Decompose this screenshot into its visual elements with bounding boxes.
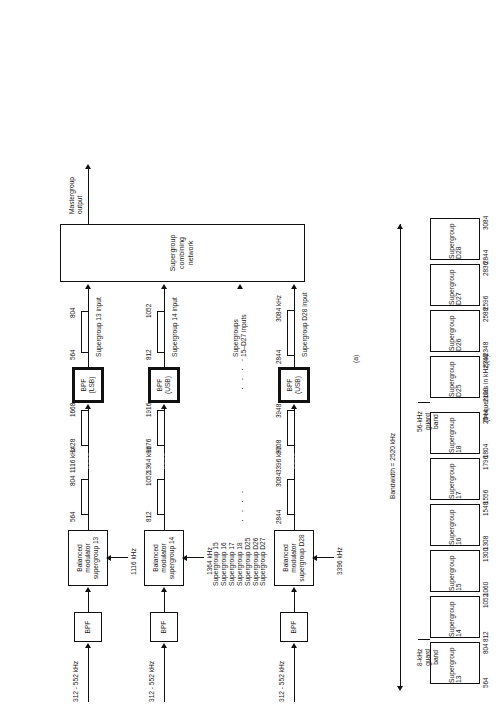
ch0-bpf-label: BPF bbox=[84, 621, 92, 634]
spectrum-band-box: Supergroup 14 bbox=[430, 596, 480, 638]
spectrum-band-low: 2596 bbox=[483, 296, 489, 310]
ch0-carrier-line bbox=[108, 557, 128, 558]
spectrum-band-high: 804 bbox=[483, 643, 489, 654]
ch2-bpf-to-mod bbox=[294, 590, 295, 612]
ch0-mod-arrow bbox=[85, 587, 91, 592]
ch0-filter-box: BPF (LSB) bbox=[74, 369, 102, 401]
unlisted-supergroups-text: Supergroup 15 Supergroup 16 Supergroup 1… bbox=[212, 538, 266, 586]
guard-8k-label: 8-kHz guard band bbox=[416, 649, 440, 666]
ch1-out-high: 1052 bbox=[146, 304, 152, 318]
spectrum-band-box: Supergroup 17 bbox=[430, 458, 480, 500]
ch0-modulator-label: Balanced modulator supergroup 13 bbox=[76, 537, 101, 580]
ch1-out-low: 812 bbox=[146, 349, 152, 360]
ch0-out-high: 804 bbox=[70, 307, 76, 318]
spectrum-band-label: Supergroup D27 bbox=[448, 265, 462, 305]
unlisted-supergroups-list: Supergroup 15 Supergroup 16 Supergroup 1… bbox=[212, 538, 267, 586]
ch2-carrier-tick bbox=[294, 453, 295, 469]
ch0-input-arrow bbox=[85, 643, 91, 648]
ch1-filter-label: BPF (USB) bbox=[156, 376, 172, 394]
ch2-mod-arrow bbox=[291, 587, 297, 592]
ch0-modulator-box: Balanced modulator supergroup 13 bbox=[68, 530, 108, 586]
ch2-network-arrow bbox=[291, 284, 297, 289]
ch2-input-arrow bbox=[291, 643, 297, 648]
ch2-out-low: 2844 bbox=[276, 350, 282, 364]
ch0-carrier-tick bbox=[88, 453, 89, 469]
ch0-lsb-high: 804 bbox=[70, 475, 76, 486]
spectrum-band-label: Supergroup 13 bbox=[448, 643, 462, 683]
spectrum-band-low: 2844 bbox=[483, 250, 489, 264]
mastergroup-output-line bbox=[88, 168, 89, 224]
ch2-usb-high: 3948 bbox=[276, 404, 282, 418]
ch2-lsb-high: 3084 bbox=[276, 473, 282, 487]
spectrum-band-box: Supergroup 16 bbox=[430, 504, 480, 546]
ch0-input-line bbox=[88, 646, 89, 702]
ch2-carrier-line bbox=[314, 557, 334, 558]
ch2-usb-low: 3708 bbox=[276, 440, 282, 454]
spectrum-band-low: 1060 bbox=[483, 582, 489, 596]
spectrum-band-box: Supergroup D25 bbox=[430, 356, 480, 398]
ch1-input-label: 312 - 552 kHz bbox=[148, 661, 156, 702]
caption-b: (b) bbox=[482, 355, 489, 363]
bandwidth-line bbox=[400, 224, 401, 686]
ch2-bpf-box: BPF bbox=[280, 612, 308, 642]
ch1-bpf-to-mod bbox=[164, 590, 165, 612]
ch2-out-high: 3084 kHz bbox=[276, 295, 282, 322]
spectrum-band-label: Supergroup 16 bbox=[448, 505, 462, 545]
ch2-modulator-label: Balanced modulator supergroup D28 bbox=[282, 534, 307, 581]
ch0-carrier-arrow bbox=[106, 555, 111, 561]
ch2-usb-bracket bbox=[287, 410, 294, 446]
ch0-carrier-label: 1116 kHz bbox=[130, 548, 138, 575]
ch1-mod-arrow bbox=[161, 587, 167, 592]
ch1-lsb-high: 1052 bbox=[146, 472, 152, 486]
ch1-carrier-line bbox=[184, 557, 204, 558]
ch1-output-line bbox=[164, 288, 165, 368]
spectrum-band-box: Supergroup D28 bbox=[430, 218, 480, 260]
ch0-out-low: 564 bbox=[70, 349, 76, 360]
ch2-output-label: Supergroup D28 input bbox=[301, 292, 309, 357]
units-note: (frequencies in kHz) bbox=[482, 363, 489, 422]
ch1-lsb-bracket bbox=[157, 479, 164, 515]
bandwidth-arrow-right bbox=[397, 224, 403, 229]
ch1-filter-box: BPF (USB) bbox=[150, 369, 178, 401]
ch2-carrier-arrow bbox=[312, 555, 317, 561]
supergroups-15-d27-label: Supergroups 15–D27 inputs bbox=[232, 314, 248, 357]
ch2-carrier-label: 3396 kHz bbox=[336, 547, 344, 575]
spectrum-band-low: 1556 bbox=[483, 490, 489, 504]
ch2-input-line bbox=[294, 646, 295, 702]
ch1-carrier-arrow bbox=[182, 555, 187, 561]
ch2-input-label: 312 - 552 kHz bbox=[278, 661, 286, 702]
ch1-out-bracket bbox=[157, 311, 164, 353]
ch1-bpf-label: BPF bbox=[160, 621, 168, 634]
ch2-out-bracket bbox=[287, 310, 294, 356]
ch2-bpf-label: BPF bbox=[290, 621, 298, 634]
bandwidth-label: Bandwidth = 2520 kHz bbox=[389, 429, 397, 503]
spectrum-band-low: 1804 bbox=[483, 444, 489, 458]
spectrum-band-low: 812 bbox=[483, 631, 489, 642]
mastergroup-output-label: Mastergroup output bbox=[68, 177, 84, 214]
ch0-bpf-box: BPF bbox=[74, 612, 102, 642]
combining-network-label: Supergroup combining network bbox=[169, 235, 195, 272]
ch0-usb-high: 1668 bbox=[70, 403, 76, 417]
ch2-output-line bbox=[294, 288, 295, 368]
ch1-modulator-label: Balanced modulator supergroup 14 bbox=[152, 537, 177, 580]
ch0-usb-bracket bbox=[81, 410, 88, 446]
ch0-input-label: 312 - 552 kHz bbox=[72, 661, 80, 702]
ch0-out-bracket bbox=[81, 311, 88, 353]
ch1-bpf-box: BPF bbox=[150, 612, 178, 642]
spectrum-band-low: 1308 bbox=[483, 536, 489, 550]
spectrum-band-label: Supergroup D26 bbox=[448, 311, 462, 351]
guard-56k-tick bbox=[418, 402, 430, 403]
ch2-filter-label: BPF (USB) bbox=[286, 376, 302, 394]
ch0-usb-low: 1428 bbox=[70, 439, 76, 453]
ch0-filter-label: BPF (LSB) bbox=[80, 377, 96, 394]
ch1-modulator-box: Balanced modulator supergroup 14 bbox=[144, 530, 184, 586]
ch2-filter-box: BPF (USB) bbox=[280, 369, 308, 401]
spectrum-band-box: Supergroup D27 bbox=[430, 264, 480, 306]
spectrum-band-low: 564 bbox=[483, 677, 489, 688]
rotated-canvas: 312 - 552 kHz BPF Balanced modulator sup… bbox=[0, 0, 500, 708]
ch1-spectrum-line bbox=[164, 409, 165, 530]
ch2-filter-arrow bbox=[291, 404, 297, 409]
spectrum-band-box: Supergroup D26 bbox=[430, 310, 480, 352]
ch1-input-arrow bbox=[161, 643, 167, 648]
ch1-usb-high: 1916 bbox=[146, 403, 152, 417]
